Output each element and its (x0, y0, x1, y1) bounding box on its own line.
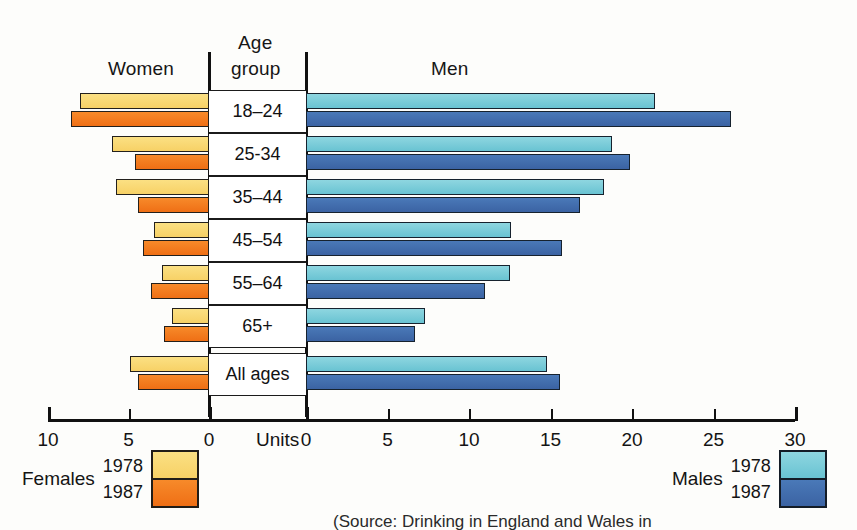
bar-female-1978 (130, 356, 209, 372)
bar-male-1987 (306, 154, 630, 170)
legend-males-swatches (779, 450, 827, 508)
age-group-cell: 55–64 (209, 262, 306, 305)
bar-female-1978 (162, 265, 209, 281)
bar-male-1987 (306, 240, 562, 256)
bar-female-1987 (135, 154, 209, 170)
bar-female-1987 (151, 283, 209, 299)
bar-female-1987 (143, 240, 209, 256)
axis-tick (48, 407, 51, 421)
bar-male-1978 (306, 222, 511, 238)
legend-females-year-1987: 1987 (103, 479, 143, 505)
axis-tick (795, 407, 798, 421)
legend-swatch-male-1987 (781, 478, 825, 506)
axis-line (48, 419, 795, 422)
axis-tick (714, 409, 716, 419)
age-group-cell: 65+ (209, 305, 306, 348)
axis-units-label: Units (256, 429, 299, 451)
legend-males-year-1978: 1978 (731, 453, 771, 479)
axis-tick (129, 409, 131, 419)
bar-male-1978 (306, 136, 612, 152)
legend-males: Males 1978 1987 (672, 450, 827, 508)
age-group-cell: 18–24 (209, 90, 306, 133)
bar-male-1987 (306, 111, 731, 127)
axis-tick (551, 409, 553, 419)
bar-male-1978 (306, 265, 510, 281)
axis-tick (632, 409, 634, 419)
axis-tick-label: 10 (37, 429, 58, 451)
age-group-cell: 45–54 (209, 219, 306, 262)
bar-male-1987 (306, 283, 485, 299)
legend-males-year-1987: 1987 (731, 479, 771, 505)
bar-female-1978 (80, 93, 209, 109)
bar-female-1987 (71, 111, 209, 127)
men-panel-label: Men (431, 58, 469, 80)
age-group-label-line2: group (231, 58, 281, 80)
age-group-cell: 25-34 (209, 133, 306, 176)
bar-male-1978 (306, 308, 425, 324)
axis-tick (388, 409, 390, 419)
bar-male-1987 (306, 197, 580, 213)
axis-tick-label: 0 (204, 429, 215, 451)
legend-males-years: 1978 1987 (731, 453, 771, 505)
bar-female-1978 (172, 308, 209, 324)
value-axis: 1050051015202530 Units (0, 415, 857, 429)
legend-swatch-female-1978 (153, 452, 197, 478)
legend-females: Females 1978 1987 (22, 450, 199, 508)
bar-male-1978 (306, 356, 547, 372)
axis-tick-label: 25 (703, 429, 724, 451)
bar-male-1978 (306, 179, 604, 195)
axis-tick (469, 409, 471, 419)
source-caption: (Source: Drinking in England and Wales i… (333, 512, 652, 530)
bar-male-1987 (306, 326, 415, 342)
axis-tick-label: 20 (621, 429, 642, 451)
age-group-label-line1: Age (238, 32, 272, 54)
bar-female-1978 (112, 136, 209, 152)
axis-tick-label: 15 (540, 429, 561, 451)
bar-male-1978 (306, 93, 655, 109)
bar-male-1987 (306, 374, 560, 390)
legend-swatch-male-1978 (781, 452, 825, 478)
legend-females-swatches (151, 450, 199, 508)
legend-swatch-female-1987 (153, 478, 197, 506)
age-group-cell: All ages (209, 353, 306, 396)
age-group-cell: 35–44 (209, 176, 306, 219)
axis-tick-label: 10 (458, 429, 479, 451)
axis-tick-label: 5 (123, 429, 134, 451)
legend-females-years: 1978 1987 (103, 453, 143, 505)
bar-female-1987 (164, 326, 209, 342)
bar-female-1987 (138, 374, 209, 390)
axis-tick-label: 30 (784, 429, 805, 451)
bar-female-1978 (154, 222, 209, 238)
bar-female-1978 (116, 179, 209, 195)
axis-tick-label: 5 (382, 429, 393, 451)
axis-tick (209, 407, 212, 421)
bar-female-1987 (138, 197, 209, 213)
legend-females-title: Females (22, 468, 95, 490)
axis-tick (306, 407, 309, 421)
population-pyramid-chart: Women Age group Men 18–2425-3435–4445–54… (0, 0, 857, 530)
legend-males-title: Males (672, 468, 723, 490)
women-panel-label: Women (108, 58, 174, 80)
legend-females-year-1978: 1978 (103, 453, 143, 479)
axis-tick-label: 0 (301, 429, 312, 451)
